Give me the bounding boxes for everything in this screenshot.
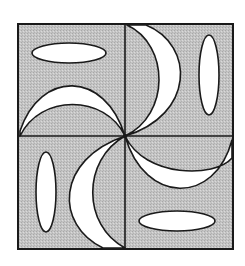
ellipse-bottom-right — [139, 211, 215, 231]
ellipse-bottom-left — [36, 152, 56, 232]
ellipse-top-left — [32, 43, 106, 63]
ellipse-top-right — [199, 35, 219, 115]
center-point — [123, 134, 127, 138]
pinwheel-tile-figure — [0, 0, 245, 266]
